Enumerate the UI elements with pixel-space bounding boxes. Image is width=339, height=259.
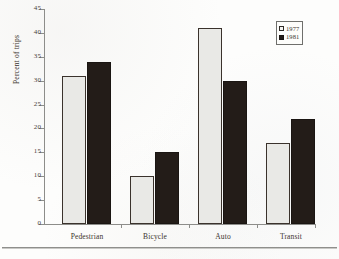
legend-item-1977[interactable]: 1977 [279,25,299,33]
chart-legend: 1977 1981 [276,21,303,45]
bar-transit-1981[interactable] [291,119,315,224]
x-axis-label-auto: Auto [193,232,253,242]
y-axis-tick-label: 25 [34,99,41,110]
legend-swatch-filled-square-icon [279,35,284,40]
y-axis-tick-label: 5 [37,194,41,205]
bar-auto-1981[interactable] [223,81,247,224]
y-axis-title: Percent of trips [12,35,21,84]
bar-auto-1977[interactable] [198,28,222,224]
legend-label-1977: 1977 [286,25,299,33]
y-axis-tick-label: 30 [34,75,41,86]
x-axis-line [44,224,316,225]
page-divider-rule-shadow [2,248,337,249]
y-axis-tick-label: 15 [34,146,41,157]
y-axis-tick-label: 0 [37,218,41,229]
legend-label-1981: 1981 [286,33,299,41]
legend-item-1981[interactable]: 1981 [279,33,299,41]
bar-group [130,9,180,224]
bar-pedestrian-1977[interactable] [62,76,86,224]
x-axis-tick-mark [121,224,122,228]
x-axis-label-pedestrian: Pedestrian [57,232,117,242]
y-axis-tick-label: 45 [34,3,41,14]
x-axis-tick-mark-end [315,224,316,228]
x-axis-label-bicycle: Bicycle [125,232,185,242]
bar-bicycle-1977[interactable] [130,176,154,224]
x-axis-label-transit: Transit [261,232,321,242]
y-axis-tick-label: 40 [34,27,41,38]
y-axis-tick-label: 10 [34,170,41,181]
bar-transit-1977[interactable] [266,143,290,224]
bar-group [198,9,248,224]
x-axis-tick-mark [189,224,190,228]
chart-figure: Percent of trips 051015202530354045 Pede… [0,0,339,259]
legend-swatch-open-square-icon [279,26,284,31]
bar-bicycle-1981[interactable] [155,152,179,224]
bar-group [62,9,112,224]
y-axis-tick-label: 20 [34,122,41,133]
y-axis-line [44,9,45,224]
x-axis-tick-mark [257,224,258,228]
y-axis-tick-label: 35 [34,51,41,62]
bar-pedestrian-1981[interactable] [87,62,111,224]
